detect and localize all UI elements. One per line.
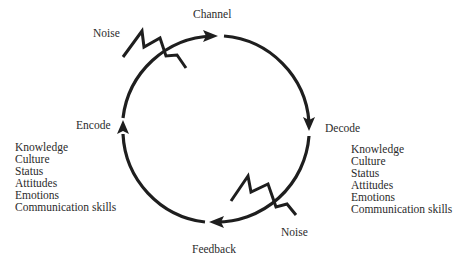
decode-factor-item: Status [351,167,452,179]
decode-factor-item: Attitudes [351,179,452,191]
stage-label-decode: Decode [325,122,360,134]
encode-factor-item: Culture [15,153,116,165]
decode-factor-item: Communication skills [351,203,452,215]
encode-factor-item: Attitudes [15,177,116,189]
decode-factor-item: Culture [351,155,452,167]
arc-encode-to-channel [123,36,212,118]
arrowhead-encode-icon [117,120,129,134]
noise-zigzag-top-icon [123,31,186,68]
decode-factors-list: Knowledge Culture Status Attitudes Emoti… [351,143,452,215]
arc-decode-to-feedback [214,136,309,222]
stage-label-channel: Channel [193,8,231,20]
arc-feedback-to-encode [123,134,205,222]
stage-label-encode: Encode [76,119,110,131]
encode-factor-item: Communication skills [15,201,116,213]
encode-factors-list: Knowledge Culture Status Attitudes Emoti… [15,141,116,213]
noise-label-top: Noise [93,27,120,39]
arc-channel-to-decode [224,36,309,122]
noise-label-bottom: Noise [281,226,308,238]
encode-factor-item: Knowledge [15,141,116,153]
stage-label-feedback: Feedback [192,243,236,255]
decode-factor-item: Knowledge [351,143,452,155]
encode-factor-item: Emotions [15,189,116,201]
decode-factor-item: Emotions [351,191,452,203]
cycle-diagram [0,0,473,262]
encode-factor-item: Status [15,165,116,177]
